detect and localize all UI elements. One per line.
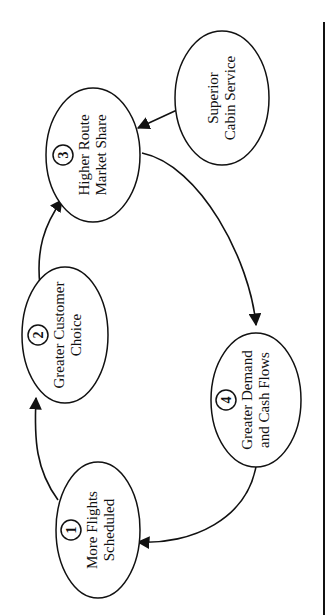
node-label-line-1: Superior [205, 72, 221, 124]
node-label-line-1: Higher Route [76, 114, 92, 196]
step-number: 3 [56, 152, 71, 159]
step-number: 4 [219, 397, 234, 404]
node-greater-demand-cash-flows: 4 Greater Demand and Cash Flows [211, 333, 301, 467]
step-number: 2 [31, 332, 46, 339]
node-more-flights-scheduled: 1 More Flights Scheduled [56, 462, 140, 598]
node-label-line-2: and Cash Flows [256, 352, 272, 448]
node-label-line-1: Greater Customer [51, 281, 67, 388]
node-label-line-2: Market Share [93, 114, 109, 196]
node-greater-customer-choice: 2 Greater Customer Choice [22, 267, 108, 403]
node-label-line-1: Greater Demand [239, 350, 255, 450]
node-label-line-1: More Flights [84, 491, 100, 569]
edge-n1-to-n2 [35, 398, 58, 500]
step-number: 1 [64, 527, 79, 534]
virtuous-cycle-diagram: 1 More Flights Scheduled 2 Greater Custo… [0, 0, 330, 615]
node-higher-route-market-share: 3 Higher Route Market Share [46, 88, 140, 222]
node-label-line-2: Cabin Service [222, 55, 238, 140]
node-label-line-2: Scheduled [101, 498, 117, 561]
edge-n3-to-n4 [142, 153, 256, 325]
edge-n4-to-n1 [138, 460, 257, 542]
edge-n5-to-n3 [138, 110, 177, 128]
node-label-line-2: Choice [68, 313, 84, 356]
node-superior-cabin-service: Superior Cabin Service [175, 31, 269, 165]
